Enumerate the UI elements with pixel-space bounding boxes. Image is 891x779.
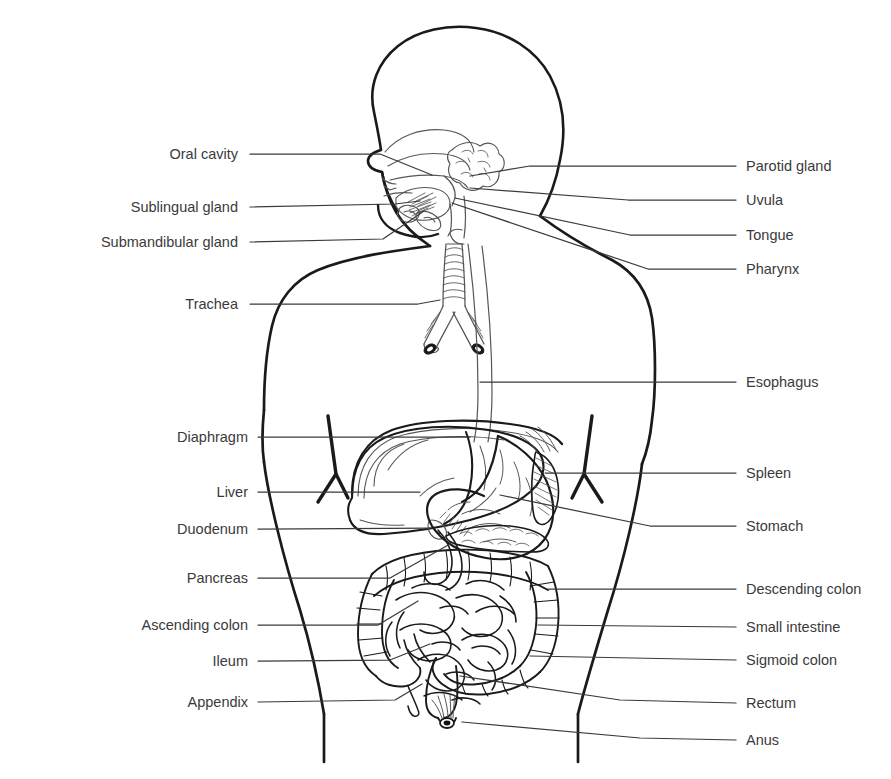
label-spleen: Spleen — [746, 466, 791, 481]
leader-line-pharynx — [452, 203, 736, 269]
label-pharynx: Pharynx — [746, 262, 799, 277]
label-oral-cavity: Oral cavity — [170, 147, 239, 162]
esophagus — [468, 244, 492, 442]
label-submandibular-gland: Submandibular gland — [101, 235, 238, 250]
leader-line-tongue — [455, 198, 736, 235]
leader-line-small-intestine — [538, 625, 736, 627]
label-liver: Liver — [217, 485, 248, 500]
label-sigmoid-colon: Sigmoid colon — [746, 653, 837, 668]
diaphragm-inner — [358, 429, 558, 498]
leader-line-anus — [462, 722, 736, 740]
label-descending-colon: Descending colon — [746, 582, 861, 597]
oral-cavity-detail — [382, 130, 474, 206]
label-duodenum: Duodenum — [177, 522, 248, 537]
label-stomach: Stomach — [746, 519, 803, 534]
label-tongue: Tongue — [746, 228, 794, 243]
label-parotid-gland: Parotid gland — [746, 159, 831, 174]
diaphragm-marker-right — [572, 416, 602, 502]
leader-line-rectum — [460, 676, 736, 703]
leader-line-oral-cavity — [250, 154, 432, 175]
label-diaphragm: Diaphragm — [177, 430, 248, 445]
label-trachea: Trachea — [185, 297, 238, 312]
leader-line-sigmoid-colon — [530, 656, 736, 660]
label-ileum: Ileum — [213, 654, 248, 669]
label-esophagus: Esophagus — [746, 375, 819, 390]
leader-line-parotid-gland — [470, 166, 736, 176]
label-anus: Anus — [746, 733, 779, 748]
leader-line-duodenum — [258, 528, 430, 529]
label-pancreas: Pancreas — [187, 571, 248, 586]
tongue — [396, 187, 450, 220]
leader-line-uvula — [470, 188, 736, 200]
ileum — [404, 634, 430, 668]
label-rectum: Rectum — [746, 696, 796, 711]
parotid-gland — [448, 143, 505, 191]
label-small-intestine: Small intestine — [746, 620, 840, 635]
digestive-system-figure: Oral cavitySublingual glandSubmandibular… — [0, 0, 891, 779]
label-sublingual-gland: Sublingual gland — [131, 200, 238, 215]
pancreas-lobules — [460, 528, 538, 546]
diaphragm-marker-left — [318, 416, 348, 502]
cecum — [376, 668, 420, 687]
anus — [440, 718, 454, 728]
leader-line-ileum — [258, 644, 430, 661]
trachea — [443, 244, 465, 306]
label-ascending-colon: Ascending colon — [142, 618, 248, 633]
label-appendix: Appendix — [188, 695, 248, 710]
appendix — [408, 686, 419, 716]
label-uvula: Uvula — [746, 193, 783, 208]
leader-line-trachea — [250, 300, 440, 304]
leader-line-ascending-colon — [258, 601, 418, 625]
